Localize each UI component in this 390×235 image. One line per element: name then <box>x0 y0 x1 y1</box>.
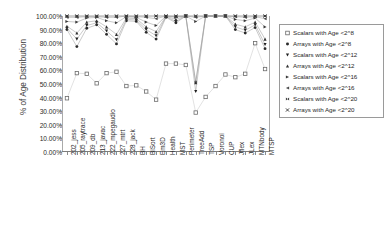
legend-label: Arrays with Age <2^12 <box>293 61 355 71</box>
chart-container: % of Age Distribution 100.00%90.00%80.00… <box>0 0 390 235</box>
legend-label: Scalars with Age <2^8 <box>293 28 354 38</box>
x-tick-label: TSP <box>208 143 215 155</box>
y-axis-tick-labels: 100.00%90.00%80.00%70.00%60.00%50.00%40.… <box>22 16 62 152</box>
legend-item[interactable]: Scalars with Age <2^12 <box>282 49 381 60</box>
y-tick-label: 80.00% <box>22 40 62 47</box>
x-tick-label: CUP <box>228 142 235 156</box>
up-triangle-icon <box>282 61 293 71</box>
chart-legend: Scalars with Age <2^8Arrays with Age <2^… <box>279 24 384 118</box>
x-tick-label: 228_jack <box>129 129 136 155</box>
x-tick-label: 202_jess <box>70 129 77 155</box>
legend-label: Arrays with Age <2^8 <box>293 39 351 49</box>
y-tick-label: 70.00% <box>22 53 62 60</box>
plot-area <box>62 16 270 152</box>
legend-label: Arrays with Age <2^16 <box>293 83 355 93</box>
legend-label: Arrays with Age <2^20 <box>293 105 355 115</box>
x-tick-label: MTNbody <box>258 127 265 155</box>
x-tick-label: JLex <box>248 142 255 156</box>
x-tick-label: 205_raytrace <box>79 118 86 155</box>
x-tick-label: Voronoi <box>218 133 225 155</box>
y-tick-label: 60.00% <box>22 67 62 74</box>
x-tick-label: 227_mtrt <box>119 130 126 155</box>
x-tick-label: 209_db <box>89 134 96 155</box>
y-tick-mark <box>59 70 62 71</box>
x-axis-tick-labels: 202_jess205_raytrace209_db213_javac222_m… <box>62 155 270 233</box>
filled-circle-icon <box>282 39 293 49</box>
y-tick-mark <box>59 98 62 99</box>
x-tick-label: Perimeter <box>188 127 195 155</box>
x-tick-label: Jflex <box>238 142 245 155</box>
x-tick-label: MST <box>179 142 186 156</box>
x-cross-icon <box>282 105 293 115</box>
y-tick-label: 10.00% <box>22 135 62 142</box>
legend-item[interactable]: Arrays with Age <2^16 <box>282 82 381 93</box>
x-tick-label: 213_javac <box>99 126 106 155</box>
y-tick-mark <box>59 152 62 153</box>
x-tick-label: Health <box>169 137 176 155</box>
y-tick-label: 90.00% <box>22 26 62 33</box>
left-triangle-icon <box>282 83 293 93</box>
x-tick-label: 222_mpegaudio <box>109 109 116 155</box>
data-series <box>65 42 266 115</box>
y-tick-mark <box>59 43 62 44</box>
y-tick-label: 40.00% <box>22 94 62 101</box>
x-tick-label: Em3D <box>159 137 166 155</box>
legend-label: Scalars with Age <2^20 <box>293 94 357 104</box>
x-tick-label: BiSort <box>149 138 156 155</box>
legend-item[interactable]: Scalars with Age <2^8 <box>282 27 381 38</box>
y-tick-label: 20.00% <box>22 121 62 128</box>
y-tick-mark <box>59 125 62 126</box>
legend-item[interactable]: Scalars with Age <2^20 <box>282 93 381 104</box>
y-tick-mark <box>59 111 62 112</box>
open-square-icon <box>282 28 293 38</box>
y-tick-mark <box>59 30 62 31</box>
down-triangle-icon <box>282 50 293 60</box>
legend-item[interactable]: Arrays with Age <2^20 <box>282 104 381 115</box>
y-tick-label: 0.00% <box>22 149 62 156</box>
y-tick-label: 50.00% <box>22 81 62 88</box>
legend-label: Scalars with Age <2^12 <box>293 50 357 60</box>
y-tick-label: 30.00% <box>22 108 62 115</box>
x-tick-label: BH <box>139 146 146 155</box>
y-tick-mark <box>59 57 62 58</box>
y-tick-mark <box>59 16 62 17</box>
y-tick-label: 100.00% <box>22 13 62 20</box>
x-tick-label: TreeAdd <box>198 131 205 155</box>
legend-item[interactable]: Arrays with Age <2^8 <box>282 38 381 49</box>
legend-label: Scalars with Age <2^16 <box>293 72 357 82</box>
y-tick-mark <box>59 84 62 85</box>
legend-item[interactable]: Arrays with Age <2^12 <box>282 60 381 71</box>
legend-item[interactable]: Scalars with Age <2^16 <box>282 71 381 82</box>
bowtie-icon <box>282 94 293 104</box>
data-series-layer <box>62 16 270 152</box>
x-tick-label: MTSP <box>268 137 275 155</box>
right-triangle-icon <box>282 72 293 82</box>
y-tick-mark <box>59 138 62 139</box>
